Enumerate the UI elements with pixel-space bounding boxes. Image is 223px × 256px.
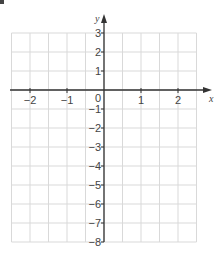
x-axis-label: x — [208, 93, 214, 104]
y-axis-label: y — [94, 13, 100, 24]
y-tick-label: −8 — [88, 236, 101, 248]
y-tick-label: −3 — [88, 141, 101, 153]
y-tick-label: −4 — [88, 160, 101, 172]
x-tick-label: −2 — [24, 94, 37, 106]
y-tick-label: −7 — [88, 217, 101, 229]
coordinate-plane: xy−2−1120321−1−2−3−4−5−6−7−8 — [0, 0, 223, 256]
x-tick-label: 1 — [138, 94, 144, 106]
y-tick-label: 2 — [95, 46, 101, 58]
y-tick-label: 1 — [95, 65, 101, 77]
x-tick-label: −1 — [61, 94, 74, 106]
y-tick-label: −1 — [88, 103, 101, 115]
y-axis-arrow-icon — [101, 14, 107, 23]
y-tick-label: −5 — [88, 179, 101, 191]
y-tick-label: 3 — [95, 27, 101, 39]
y-tick-label: −2 — [88, 122, 101, 134]
y-tick-label: −6 — [88, 198, 101, 210]
x-tick-label: 2 — [175, 94, 181, 106]
